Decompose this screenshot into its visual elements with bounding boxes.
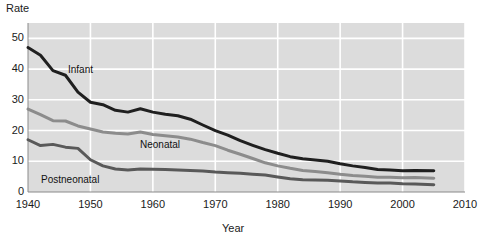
x-tick-1980: 1980 [258,198,298,210]
x-tick-1990: 1990 [320,198,360,210]
x-tick-2000: 2000 [383,198,423,210]
series-label-infant: Infant [68,64,93,75]
x-tick-1950: 1950 [70,198,110,210]
x-tick-1970: 1970 [195,198,235,210]
plot-background [28,23,465,192]
series-label-postneonatal: Postneonatal [41,174,99,185]
x-tick-2010: 2010 [445,198,485,210]
x-tick-1960: 1960 [133,198,173,210]
series-label-neonatal: Neonatal [140,139,180,150]
infant-mortality-line-chart: Rate Year 50403020100 194019501960197019… [0,0,493,240]
y-tick-30: 30 [0,93,24,105]
y-tick-20: 20 [0,124,24,136]
x-tick-1940: 1940 [8,198,48,210]
y-tick-40: 40 [0,62,24,74]
y-tick-10: 10 [0,154,24,166]
y-tick-50: 50 [0,31,24,43]
y-tick-0: 0 [0,185,24,197]
